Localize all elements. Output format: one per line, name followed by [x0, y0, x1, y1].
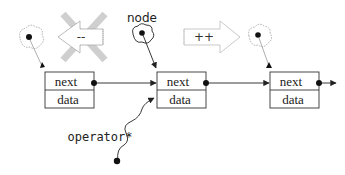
node-iterator-cloud-icon — [133, 24, 156, 68]
field-data: data — [282, 92, 304, 107]
list-node-following: next data — [270, 72, 322, 108]
increment-label: ++ — [194, 30, 214, 44]
list-node-prev: next data — [45, 72, 97, 108]
decrement-label: -- — [77, 30, 86, 44]
field-data: data — [57, 92, 79, 107]
field-next: next — [280, 74, 303, 89]
field-data: data — [169, 92, 191, 107]
field-next: next — [167, 74, 190, 89]
next-iterator-cloud-icon — [249, 24, 272, 68]
prev-iterator-cloud-icon — [20, 25, 45, 68]
operator-label: operator* — [67, 130, 132, 144]
field-next: next — [55, 74, 78, 89]
list-node-current: next data — [157, 72, 209, 108]
increment-arrow-icon: ++ — [184, 21, 240, 53]
linked-list-diagram: -- ++ node next data next data — [0, 0, 345, 175]
node-label: node — [127, 11, 157, 25]
